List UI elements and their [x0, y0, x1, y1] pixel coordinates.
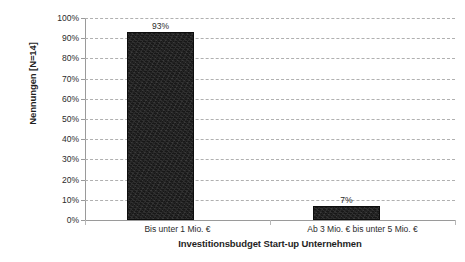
- y-tick-mark-90: [81, 38, 85, 39]
- bar-value-label-2: 7%: [340, 195, 352, 205]
- y-tick-label-60: 60%: [62, 94, 79, 104]
- x-axis-title: Investitionsbudget Start-up Unternehmen: [85, 238, 455, 249]
- y-tick-label-50: 50%: [62, 114, 79, 124]
- bar-bis-unter-1-mio[interactable]: 93%: [127, 32, 194, 220]
- y-tick-label-20: 20%: [62, 175, 79, 185]
- x-tick-mark-middle: [270, 220, 271, 225]
- y-tick-label-10: 10%: [62, 195, 79, 205]
- y-tick-mark-40: [81, 139, 85, 140]
- y-tick-label-90: 90%: [62, 33, 79, 43]
- y-tick-label-40: 40%: [62, 134, 79, 144]
- x-tick-mark-end: [455, 220, 456, 225]
- y-axis-title: Nennungen [N=14]: [27, 4, 38, 164]
- y-tick-mark-50: [81, 119, 85, 120]
- bar-value-label-1: 93%: [152, 21, 169, 31]
- x-tick-mark-start: [85, 220, 86, 225]
- y-tick-label-100: 100%: [57, 13, 79, 23]
- y-tick-label-30: 30%: [62, 154, 79, 164]
- y-tick-mark-10: [81, 200, 85, 201]
- y-tick-mark-60: [81, 99, 85, 100]
- y-tick-mark-100: [81, 18, 85, 19]
- y-tick-label-70: 70%: [62, 74, 79, 84]
- y-tick-mark-30: [81, 159, 85, 160]
- x-category-label-2: Ab 3 Mio. € bis unter 5 Mio. €: [307, 224, 418, 234]
- y-tick-label-80: 80%: [62, 53, 79, 63]
- y-tick-mark-70: [81, 79, 85, 80]
- y-tick-mark-20: [81, 180, 85, 181]
- bar-ab-3-mio-bis-unter-5-mio[interactable]: 7%: [313, 206, 380, 220]
- plot-area: 100% 90% 80% 70% 60% 50% 40% 30% 20% 10%…: [85, 18, 455, 220]
- y-tick-mark-80: [81, 58, 85, 59]
- y-tick-label-0: 0%: [67, 215, 79, 225]
- gridline-100: [85, 18, 455, 19]
- bar-chart: Nennungen [N=14] 100% 90% 80% 70% 60% 50…: [0, 0, 465, 262]
- x-category-label-1: Bis unter 1 Mio. €: [144, 224, 210, 234]
